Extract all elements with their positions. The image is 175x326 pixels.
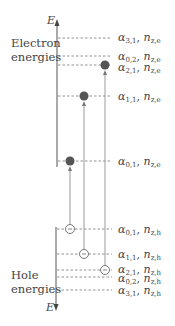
electron-dot-icon (66, 157, 75, 166)
axis-label-e-top: E (47, 14, 55, 27)
hole-level-label: α1,1, nz,h (118, 249, 161, 262)
hole-level-label: α3,1, nz,h (118, 285, 161, 298)
hole-label-line1: Hole (11, 268, 61, 282)
electron-level-label: α1,1, nz,e (118, 91, 161, 104)
electron-level-label: α2,1, nz,e (118, 62, 161, 75)
hole-circles (66, 225, 110, 275)
transition-arrowheads (68, 70, 107, 171)
electron-level-label: α3,1, nz,e (118, 32, 161, 45)
electron-label-line2: energies (11, 50, 53, 64)
hole-energies-label: Hole energies (11, 268, 61, 296)
electron-dot-icon (80, 92, 89, 101)
electron-label-line1: Electron (11, 36, 53, 50)
arrow-down-icon (54, 304, 59, 311)
electron-dot-icon (101, 61, 110, 70)
electron-level-label: α0,1, nz,e (118, 156, 161, 169)
arrow-up-icon (55, 19, 60, 26)
axis-label-e-bottom: E (46, 301, 54, 314)
electron-energies-label: Electron energies (11, 36, 53, 64)
transition-lines (70, 74, 105, 265)
hole-level-label: α0,1, nz,h (118, 224, 161, 237)
hole-label-line2: energies (11, 282, 61, 296)
